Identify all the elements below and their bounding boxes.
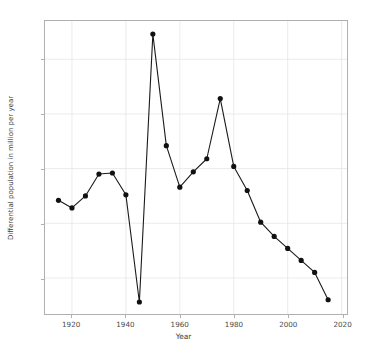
- data-point: [231, 164, 236, 169]
- x-tick-mark: [71, 315, 72, 318]
- data-point: [96, 171, 101, 176]
- y-axis-label-container: Differential population in million per y…: [0, 0, 22, 335]
- x-tick-mark: [180, 315, 181, 318]
- data-point: [258, 220, 263, 225]
- data-point: [123, 192, 128, 197]
- data-point: [272, 234, 277, 239]
- data-point: [69, 205, 74, 210]
- chart-figure: Differential population in million per y…: [0, 0, 367, 360]
- data-point: [204, 156, 209, 161]
- x-tick-mark: [125, 315, 126, 318]
- data-series-layer: [45, 21, 347, 314]
- x-tick-label: 1920: [62, 320, 80, 329]
- x-tick-mark: [288, 315, 289, 318]
- data-point: [312, 270, 317, 275]
- x-tick-mark: [234, 315, 235, 318]
- x-tick-label: 2020: [333, 320, 351, 329]
- data-point: [137, 299, 142, 304]
- data-point: [164, 143, 169, 148]
- data-point: [285, 246, 290, 251]
- x-tick-mark: [343, 315, 344, 318]
- data-point: [191, 169, 196, 174]
- data-point: [177, 185, 182, 190]
- data-point: [110, 170, 115, 175]
- plot-area: [44, 20, 348, 315]
- x-tick-label: 1940: [116, 320, 134, 329]
- data-point: [83, 193, 88, 198]
- x-tick-label: 1980: [225, 320, 243, 329]
- data-point: [218, 96, 223, 101]
- data-point: [326, 297, 331, 302]
- y-axis-label: Differential population in million per y…: [7, 95, 15, 239]
- x-axis-label: Year: [0, 332, 367, 341]
- x-tick-label: 2000: [279, 320, 297, 329]
- data-line: [58, 34, 328, 302]
- x-tick-label: 1960: [171, 320, 189, 329]
- data-point: [245, 188, 250, 193]
- data-point: [56, 198, 61, 203]
- data-point: [299, 258, 304, 263]
- data-point: [150, 32, 155, 37]
